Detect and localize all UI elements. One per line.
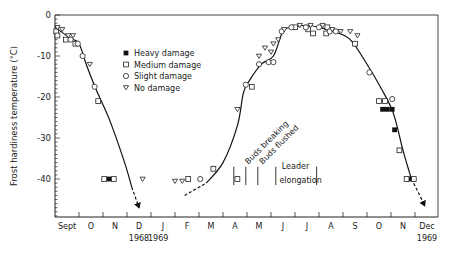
data-point-none [355, 34, 360, 38]
data-point-heavy [390, 107, 395, 112]
x-year-label: 1968 [129, 234, 149, 243]
frost-hardiness-chart: 0-10-20-30-40 SeptONDJFMAMJJASONDec19681… [0, 0, 464, 255]
curve-spring-1969-extrapolated [185, 183, 207, 195]
legend-label-medium: Medium damage [134, 61, 201, 70]
x-tick-label: A [328, 222, 334, 231]
y-tick-label: -20 [37, 92, 51, 102]
y-tick-label: -10 [37, 51, 51, 61]
data-point-slight [256, 62, 261, 67]
legend-label-slight: Slight damage [134, 72, 192, 81]
data-point-medium [235, 177, 240, 182]
x-tick-label: A [232, 222, 238, 231]
legend-marker-none [123, 86, 128, 90]
data-point-heavy [107, 177, 112, 182]
data-point-slight [75, 41, 80, 46]
data-point-medium [311, 31, 316, 36]
x-tick-label: O [376, 222, 382, 231]
data-point-medium [353, 41, 358, 46]
data-point-medium [55, 33, 60, 38]
y-axis-label: Frost hardiness temperature (°C) [9, 46, 19, 186]
data-point-slight [68, 37, 73, 42]
data-point-slight [289, 25, 294, 30]
data-point-medium [397, 148, 402, 153]
x-tick-label: N [112, 222, 118, 231]
legend-label-none: No damage [134, 84, 180, 93]
data-point-none [87, 62, 92, 66]
curve-autumn-1969-extrapolated [411, 179, 424, 206]
data-point-medium [411, 177, 416, 182]
x-tick-label: J [161, 222, 164, 231]
x-tick-label: J [281, 222, 284, 231]
x-tick-label: N [400, 222, 406, 231]
data-point-heavy [380, 107, 385, 112]
curve-autumn-1968 [55, 27, 132, 187]
data-point-medium [186, 177, 191, 182]
x-tick-label: D [136, 222, 142, 231]
data-point-medium [383, 99, 388, 104]
legend: Heavy damageMedium damageSlight damageNo… [123, 49, 201, 93]
data-point-none [140, 177, 145, 181]
data-point-none [172, 179, 177, 183]
x-year-label: 1969 [417, 234, 437, 243]
data-point-slight [243, 82, 248, 87]
curve-autumn-1968-extrapolated [132, 187, 139, 208]
data-point-none [235, 108, 240, 112]
plot-frame [55, 15, 438, 217]
x-year-label: 1969 [148, 234, 168, 243]
data-point-medium [404, 177, 409, 182]
legend-marker-slight [123, 73, 128, 78]
data-point-slight [367, 70, 372, 75]
data-points [54, 23, 416, 183]
y-ticks: 0-10-20-30-40 [37, 10, 60, 216]
y-tick-label: 0 [46, 10, 51, 20]
x-tick-label: S [352, 222, 357, 231]
data-point-medium [63, 37, 68, 42]
data-point-none [348, 30, 353, 34]
annotation: Leader [282, 162, 310, 171]
x-tick-label: F [185, 222, 190, 231]
x-tick-label: M [208, 222, 215, 231]
y-tick-label: -30 [37, 133, 51, 143]
data-point-heavy [392, 127, 397, 132]
phenology-annotations: Buds breakingBuds flushedLeaderelongatio… [243, 119, 322, 185]
x-tick-label: O [88, 222, 94, 231]
x-tick-label: J [305, 222, 308, 231]
data-point-none [268, 50, 273, 54]
x-tick-label: Dec [419, 222, 434, 231]
data-point-heavy [385, 107, 390, 112]
annotation: elongation [279, 176, 321, 185]
data-point-medium [249, 84, 254, 89]
data-point-slight [80, 53, 85, 58]
data-point-none [256, 54, 261, 58]
data-point-medium [102, 177, 107, 182]
data-point-slight [303, 25, 308, 30]
data-point-none [180, 179, 185, 183]
data-point-slight [271, 60, 276, 65]
data-point-slight [390, 96, 395, 101]
legend-marker-medium [124, 62, 129, 67]
x-tick-label: M [256, 222, 263, 231]
data-point-medium [111, 177, 116, 182]
data-point-slight [198, 176, 203, 181]
data-point-none [271, 42, 276, 46]
data-point-medium [96, 99, 101, 104]
data-point-slight [92, 84, 97, 89]
data-point-none [262, 46, 267, 50]
curve-spring-summer-1969 [206, 25, 411, 183]
legend-label-heavy: Heavy damage [134, 49, 195, 58]
x-tick-label: Sept [58, 222, 76, 231]
data-point-medium [211, 166, 216, 171]
y-tick-label: -40 [37, 174, 51, 184]
data-point-medium [377, 99, 382, 104]
legend-marker-heavy [124, 51, 129, 56]
